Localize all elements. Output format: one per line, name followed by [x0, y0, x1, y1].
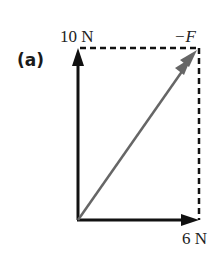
horizontal-force-label: 6 N — [182, 229, 207, 248]
horizontal-force-arrow — [77, 214, 199, 226]
resultant-label: −F — [174, 27, 196, 46]
resultant-arrow — [78, 50, 197, 220]
arrowhead-up-icon — [72, 48, 84, 66]
vertical-force-label: 10 N — [60, 27, 94, 46]
force-diagram: (a) 10 N −F 6 N — [0, 0, 218, 256]
arrowhead-right-icon — [181, 214, 199, 226]
panel-label: (a) — [17, 50, 44, 70]
vertical-force-arrow — [72, 48, 84, 220]
